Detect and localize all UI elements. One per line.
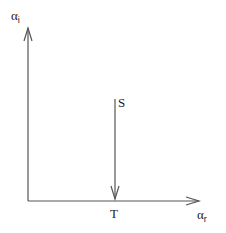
end-point-label: T xyxy=(110,207,118,220)
y-axis-subscript: i xyxy=(18,15,20,25)
x-axis xyxy=(28,197,199,205)
axes-and-arrows xyxy=(0,0,226,233)
start-point-label: S xyxy=(118,96,125,109)
y-axis xyxy=(24,28,32,201)
y-axis-symbol: α xyxy=(11,8,18,23)
x-axis-symbol: α xyxy=(197,207,204,222)
y-axis-label: αi xyxy=(11,9,20,22)
s-to-t-arrow xyxy=(111,99,119,199)
diagram-canvas: αi αr S T xyxy=(0,0,226,233)
x-axis-subscript: r xyxy=(204,214,207,224)
x-axis-label: αr xyxy=(197,208,207,221)
